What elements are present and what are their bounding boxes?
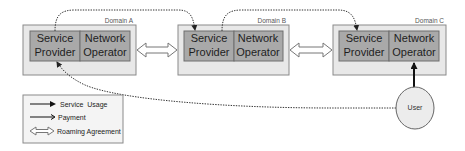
user-node: User — [396, 87, 434, 129]
cell-label: Network — [238, 32, 279, 44]
domain-a-label: Domain A — [105, 17, 134, 24]
roaming-arrow-a-b — [137, 43, 177, 57]
domain-a: Domain A Service Provider Network Operat… — [23, 17, 136, 75]
cell-label: Operator — [392, 46, 436, 58]
roaming-arrow-b-c — [290, 43, 332, 57]
legend-label: Payment — [58, 114, 86, 122]
cell-label: Network — [394, 32, 435, 44]
domain-c: Domain C Service Provider Network Operat… — [333, 17, 446, 75]
legend-label: Roaming Agreement — [57, 128, 121, 136]
domain-b-label: Domain B — [257, 17, 286, 24]
legend: Service Usage Payment Roaming Agreement — [23, 95, 123, 143]
roaming-diagram: Domain A Service Provider Network Operat… — [0, 0, 465, 151]
cell-label: Operator — [83, 46, 127, 58]
cell-label: Network — [85, 32, 126, 44]
user-label: User — [408, 104, 423, 111]
cell-label: Provider — [344, 46, 385, 58]
legend-label: Service Usage — [60, 101, 108, 109]
cell-label: Service — [191, 32, 228, 44]
cell-label: Operator — [236, 46, 280, 58]
cell-label: Provider — [189, 46, 230, 58]
cell-label: Provider — [35, 46, 76, 58]
cell-label: Service — [346, 32, 383, 44]
domain-c-label: Domain C — [415, 17, 444, 24]
cell-label: Service — [37, 32, 74, 44]
